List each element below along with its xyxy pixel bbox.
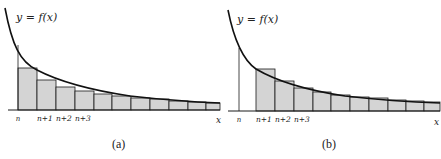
rectangle [350,97,369,111]
rectangle [75,91,94,110]
tick-label: n [16,115,21,123]
rectangle [331,95,350,111]
rectangle [188,102,206,110]
tick-labels-b: nn+1n+2n+3 [237,115,310,124]
rectangle [150,99,169,110]
rectangle [294,88,313,111]
rectangle [112,96,131,110]
rectangle [18,68,37,110]
rectangle [37,80,56,110]
curve-label-a: y = f(x) [15,11,57,24]
rectangle [256,69,275,111]
rectangle [131,98,150,110]
tick-label: n+1 [256,115,272,124]
x-axis-label-b: x [434,117,439,127]
panel-a: y = f(x) nn+1n+2n+3 x (a) [5,8,221,151]
tick-label: n+2 [275,115,291,124]
caption-b: (b) [322,137,336,151]
rectangles-a [18,68,220,110]
tick-label: n+1 [37,114,53,123]
tick-label: n [237,116,242,124]
tick-labels-a: nn+1n+2n+3 [16,114,91,123]
x-axis-label-a: x [216,115,221,125]
figure: y = f(x) nn+1n+2n+3 x (a) y = f(x) nn+1n… [0,0,441,159]
rectangle [206,103,220,110]
panel-b: y = f(x) nn+1n+2n+3 x (b) [228,10,440,151]
rectangle [275,81,294,111]
tick-label: n+3 [75,114,91,123]
rectangle [94,94,112,110]
curve-label-b: y = f(x) [236,13,278,26]
tick-label: n+2 [56,114,72,123]
rectangle [313,92,331,111]
caption-a: (a) [112,137,125,151]
tick-label: n+3 [294,115,310,124]
rectangle [169,101,188,110]
rectangles-b [256,69,440,111]
rectangle [56,87,75,110]
